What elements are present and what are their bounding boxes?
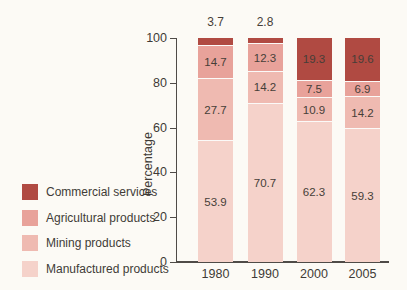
bar-segment-value-label: 19.6 <box>351 53 373 65</box>
outside-value-label-1980-commercial: 3.7 <box>198 15 233 29</box>
legend-label: Commercial services <box>46 185 157 199</box>
stacked-bar-chart: Percentage 0 20 40 60 80 100 53.927.714.… <box>0 0 407 290</box>
bar-segment-2005-agricultural-products: 6.9 <box>345 82 380 97</box>
bar-segment-2005-commercial-services: 19.6 <box>345 38 380 82</box>
bar-segment-value-label: 19.3 <box>303 53 325 65</box>
legend-swatch-commercial-services <box>22 184 38 200</box>
x-tick-label-1990: 1990 <box>240 267 290 281</box>
tick-mark <box>170 217 176 218</box>
bar-segment-value-label: 6.9 <box>355 83 371 95</box>
bar-segment-2005-manufactured-products: 59.3 <box>345 129 380 262</box>
y-tick-80: 80 <box>135 83 176 97</box>
legend-swatch-manufactured-products <box>22 261 38 277</box>
y-tick-label: 80 <box>135 76 167 90</box>
bar-segment-1980-agricultural-products: 14.7 <box>198 46 233 79</box>
bar-segment-value-label: 14.2 <box>351 107 373 119</box>
bar-segment-value-label: 53.9 <box>204 196 226 208</box>
y-tick-label: 60 <box>135 121 167 135</box>
bar-segment-2005-mining-products: 14.2 <box>345 97 380 129</box>
bar-segment-value-label: 27.7 <box>204 104 226 116</box>
legend-item-manufactured-products: Manufactured products <box>22 261 169 277</box>
legend-label: Agricultural products <box>46 211 155 225</box>
bar-segment-value-label: 70.7 <box>254 177 276 189</box>
bar-segment-value-label: 7.5 <box>306 83 322 95</box>
legend-swatch-agricultural-products <box>22 210 38 226</box>
legend-label: Mining products <box>46 236 131 250</box>
tick-mark <box>170 128 176 129</box>
bar-segment-value-label: 14.7 <box>204 56 226 68</box>
bar-segment-value-label: 12.3 <box>254 52 276 64</box>
bar-segment-1980-mining-products: 27.7 <box>198 79 233 141</box>
y-axis-line <box>176 38 177 262</box>
bar-segment-2000-mining-products: 10.9 <box>297 98 332 122</box>
legend-swatch-mining-products <box>22 235 38 251</box>
bar-segment-value-label: 10.9 <box>303 104 325 116</box>
legend-item-mining-products: Mining products <box>22 235 131 251</box>
bar-segment-1990-agricultural-products: 12.3 <box>248 44 283 72</box>
legend-label: Manufactured products <box>46 262 169 276</box>
y-tick-100: 100 <box>135 38 176 52</box>
bar-segment-1990-mining-products: 14.2 <box>248 72 283 104</box>
y-tick-60: 60 <box>135 128 176 142</box>
bar-segment-1980-commercial-services <box>198 38 233 46</box>
legend-item-commercial-services: Commercial services <box>22 184 157 200</box>
bar-segment-2000-manufactured-products: 62.3 <box>297 122 332 262</box>
tick-mark <box>170 38 176 39</box>
bar-segment-value-label: 59.3 <box>351 190 373 202</box>
bar-segment-1990-manufactured-products: 70.7 <box>248 104 283 262</box>
x-tick-label-1980: 1980 <box>191 267 241 281</box>
x-tick-label-2000: 2000 <box>289 267 339 281</box>
bar-segment-value-label: 14.2 <box>254 81 276 93</box>
y-tick-label: 40 <box>135 165 167 179</box>
tick-mark <box>170 172 176 173</box>
tick-mark <box>170 262 176 263</box>
legend-item-agricultural-products: Agricultural products <box>22 210 155 226</box>
y-tick-label: 100 <box>135 31 167 45</box>
outside-value-label-1990-commercial: 2.8 <box>248 15 283 29</box>
bar-segment-2000-commercial-services: 19.3 <box>297 38 332 81</box>
bar-segment-2000-agricultural-products: 7.5 <box>297 81 332 98</box>
bar-segment-1980-manufactured-products: 53.9 <box>198 141 233 262</box>
x-tick-label-2005: 2005 <box>338 267 388 281</box>
bar-segment-1990-commercial-services <box>248 38 283 44</box>
tick-mark <box>170 83 176 84</box>
bar-segment-value-label: 62.3 <box>303 186 325 198</box>
